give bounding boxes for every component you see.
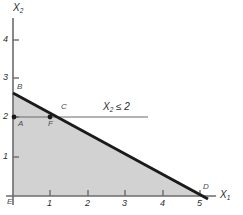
point-label-c: C	[61, 103, 67, 111]
x-tick-label-5: 5	[197, 199, 202, 208]
constraint-annotation-x2: X2 ≤ 2	[103, 102, 130, 112]
y-tick-label-2: 2	[3, 112, 8, 121]
x-tick-label-2: 2	[85, 199, 90, 208]
x-tick-label-3: 3	[122, 199, 127, 208]
y-tick-label-3: 3	[3, 73, 8, 82]
point-label-a: A	[18, 120, 23, 128]
y-tick-label-1: 1	[3, 152, 8, 161]
point-label-f: F	[48, 120, 53, 128]
point-label-b: B	[17, 83, 22, 91]
y-tick-label-4: 4	[3, 35, 8, 44]
linear-programming-chart: X2 X1 4 3 2 1 1 2 3 4 5 B C A F D E X2 ≤…	[0, 0, 243, 215]
point-label-e: E	[7, 198, 12, 206]
x-tick-label-1: 1	[47, 199, 52, 208]
x-axis-label: X1	[220, 190, 230, 200]
point-label-d: D	[203, 183, 209, 191]
x-tick-label-4: 4	[160, 199, 165, 208]
y-axis-label: X2	[13, 3, 23, 13]
point-dot-a	[12, 115, 17, 120]
